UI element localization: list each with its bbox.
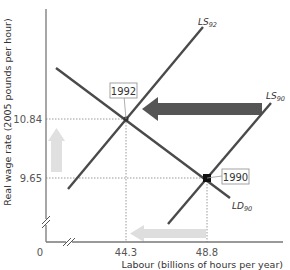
x-tick-443: 44.3 <box>115 247 137 258</box>
y-tick-965: 9.65 <box>20 173 42 184</box>
ls92-label: LS92 <box>198 17 217 29</box>
x-axis-title: Labour (billions of hours per year) <box>121 259 283 270</box>
x-tick-488: 48.8 <box>196 247 218 258</box>
year-label-1990: 1990 <box>223 172 248 183</box>
labour-market-chart: 1992 1990 LS92 LS90 LD90 10.84 9.65 44.3… <box>0 0 290 270</box>
supply-shift-arrow <box>142 97 262 121</box>
leader-1992 <box>124 96 126 119</box>
employment-fall-arrow <box>130 225 206 242</box>
label-box-1990: 1990 <box>222 169 249 184</box>
origin-label: 0 <box>37 247 43 258</box>
label-box-1992: 1992 <box>110 83 137 98</box>
y-tick-1084: 10.84 <box>13 114 42 125</box>
ls90-label: LS90 <box>266 91 285 103</box>
guide-lines <box>46 119 207 242</box>
ld90-label: LD90 <box>232 201 252 213</box>
year-label-1992: 1992 <box>111 86 136 97</box>
y-axis-title: Real wage rate (2005 pounds per hour) <box>2 18 13 205</box>
curves <box>56 27 271 224</box>
wage-rise-arrow <box>48 128 65 172</box>
